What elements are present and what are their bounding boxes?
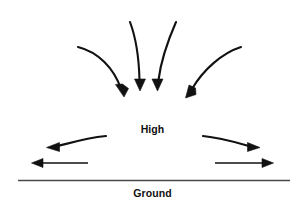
outflow-arrow-lower-left [32, 159, 89, 168]
ground-label: Ground [0, 188, 305, 199]
outflow-arrow-lower-right [215, 159, 274, 168]
inflow-arrow-center-left [130, 22, 146, 91]
high-pressure-label: High [0, 124, 305, 135]
outflow-arrow-upper-left [47, 136, 107, 152]
diagram-canvas [0, 0, 305, 208]
inflow-arrow-far-right [186, 47, 242, 98]
inflow-arrow-center-right [152, 22, 176, 91]
pressure-system-diagram: High Ground [0, 0, 305, 208]
inflow-arrow-far-left [78, 47, 129, 97]
outflow-arrow-upper-right [203, 136, 260, 152]
